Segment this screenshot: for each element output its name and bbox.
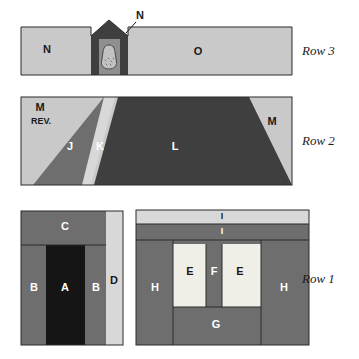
row1-unit-A bbox=[46, 245, 85, 345]
row-3-group: N O N Row 3 bbox=[21, 9, 335, 75]
row-caption-3: Row 3 bbox=[301, 43, 335, 58]
row-2-group: M REV. J K L M Row 2 bbox=[21, 97, 335, 185]
row2-label-M-upper-left: M bbox=[35, 101, 44, 113]
row3-label-O: O bbox=[194, 45, 203, 57]
row1-label-B-right: B bbox=[92, 281, 100, 293]
row3-label-N-callout: N bbox=[136, 9, 144, 21]
row-caption-1: Row 1 bbox=[301, 271, 335, 286]
row1-label-B-left: B bbox=[30, 281, 38, 293]
row3-unit-O bbox=[128, 27, 292, 75]
row2-label-K: K bbox=[96, 140, 104, 152]
diagram-canvas: N O N Row 3 M REV. J bbox=[0, 0, 359, 359]
row1-label-C: C bbox=[61, 220, 69, 232]
row1-label-H-right: H bbox=[280, 281, 288, 293]
row1-label-E-left: E bbox=[186, 265, 193, 277]
row1-unit-B-left bbox=[21, 245, 46, 345]
row2-label-J: J bbox=[67, 140, 73, 152]
row3-label-N-left: N bbox=[43, 43, 51, 55]
row-1-left-block: C B A B D bbox=[21, 211, 123, 345]
row1-label-G: G bbox=[212, 318, 221, 330]
row1-label-H-left: H bbox=[151, 281, 159, 293]
row-caption-2: Row 2 bbox=[301, 133, 335, 148]
row1-unit-B-right bbox=[85, 245, 106, 345]
row1-label-F: F bbox=[211, 265, 218, 277]
row2-label-M-right: M bbox=[267, 115, 276, 127]
row3-unit-N-left bbox=[21, 27, 91, 75]
row2-label-M-rev: REV. bbox=[31, 116, 51, 126]
row1-label-I-top: I bbox=[221, 211, 224, 221]
row1-label-E-right: E bbox=[236, 265, 243, 277]
row1-label-A: A bbox=[61, 281, 69, 293]
row2-label-L: L bbox=[172, 140, 179, 152]
row1-label-I-second: I bbox=[221, 226, 224, 236]
stratigraphy-figure: N O N Row 3 M REV. J bbox=[0, 0, 359, 359]
row1-label-D: D bbox=[110, 274, 118, 286]
row-1-right-block: I I H E F E H G Row 1 bbox=[136, 210, 335, 345]
